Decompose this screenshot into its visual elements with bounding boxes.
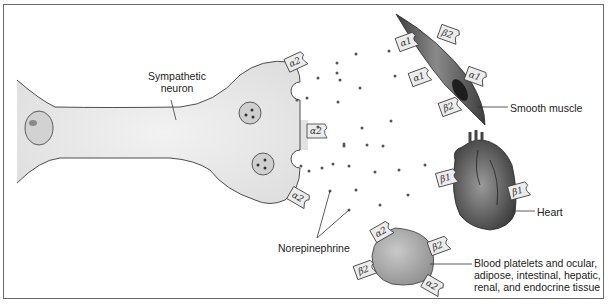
receptor-beta2: β2 (438, 97, 462, 117)
label-line: Sympathetic (144, 70, 210, 82)
receptor-alpha1: α1 (408, 67, 432, 87)
vesicle (252, 153, 274, 175)
label-line: renal, and endocrine tissue (474, 281, 601, 293)
heart (453, 130, 516, 230)
label-other-tissues: Blood platelets and ocular, adipose, int… (474, 257, 601, 293)
nucleus (25, 111, 53, 145)
label-sympathetic-neuron: Sympathetic neuron (144, 70, 210, 94)
receptor-beta2: β2 (437, 24, 461, 44)
receptor-beta2: β2 (427, 236, 451, 256)
label-smooth-muscle: Smooth muscle (510, 102, 582, 114)
label-line: adipose, intestinal, hepatic, (474, 269, 601, 281)
vesicle (239, 102, 261, 124)
svg-text:α2: α2 (310, 126, 322, 136)
label-heart: Heart (537, 206, 563, 218)
label-line: Blood platelets and ocular, (474, 257, 601, 269)
label-norepinephrine: Norepinephrine (278, 242, 350, 254)
label-line: neuron (144, 82, 210, 94)
